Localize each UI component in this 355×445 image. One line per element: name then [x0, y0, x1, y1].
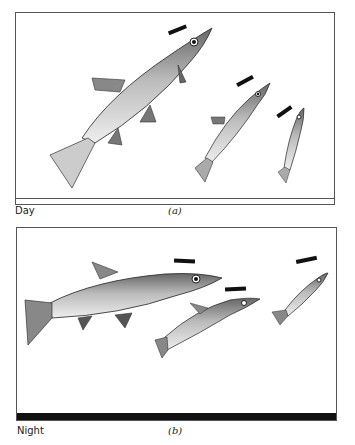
fish-day-medium [195, 75, 270, 182]
fish-day-large [50, 24, 212, 188]
fish-day-small [276, 105, 304, 183]
fish-illustrations [0, 0, 355, 445]
fish-night-small [272, 256, 328, 325]
